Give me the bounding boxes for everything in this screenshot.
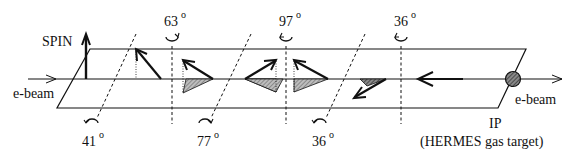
spin-arrow-icon — [82, 34, 90, 79]
spin-vector-longitudinal-icon — [418, 72, 463, 86]
angle-label-77: 77 o — [197, 129, 219, 149]
svg-text:63: 63 — [164, 14, 178, 29]
rotation-arc-97-arrow-icon — [280, 33, 284, 37]
svg-text:o: o — [296, 9, 301, 20]
svg-text:36: 36 — [394, 14, 408, 29]
svg-text:97: 97 — [279, 14, 293, 29]
rotator-axis-77 — [211, 34, 251, 118]
angle-label-41: 41 o — [82, 129, 104, 149]
svg-text:o: o — [329, 129, 334, 140]
spin-rotator-diagram: SPIN e-beam e-beam IP (HERMES gas target… — [0, 0, 571, 159]
spin-vector-5-icon — [354, 79, 386, 98]
rotation-arc-63-arrow-icon — [175, 33, 179, 37]
svg-text:36: 36 — [312, 134, 326, 149]
svg-text:o: o — [411, 9, 416, 20]
spin-label: SPIN — [42, 34, 72, 49]
ip-label: IP — [489, 116, 502, 131]
rotation-arc-36t-arrow-icon — [395, 33, 399, 37]
svg-text:o: o — [99, 129, 104, 140]
beam-label-left: e-beam — [13, 86, 54, 101]
angle-label-97: 97 o — [279, 9, 301, 29]
angle-label-36b: 36 o — [312, 129, 334, 149]
spin-vector-3-icon — [245, 60, 283, 92]
ip-target-icon — [506, 72, 521, 87]
spin-vector-4-icon — [294, 60, 328, 92]
spin-vector-1-icon — [136, 49, 161, 79]
svg-text:o: o — [214, 129, 219, 140]
svg-text:77: 77 — [197, 134, 211, 149]
rotator-axis-36b — [326, 34, 365, 118]
rotation-arc-63-icon — [166, 37, 178, 41]
rotation-arc-97-icon — [280, 37, 292, 41]
spin-vector-2-icon — [183, 60, 213, 93]
ip-sublabel: (HERMES gas target) — [420, 134, 544, 150]
rotator-axis-41 — [97, 34, 136, 118]
beam-label-right: e-beam — [515, 92, 556, 107]
svg-text:41: 41 — [82, 134, 96, 149]
svg-text:o: o — [181, 9, 186, 20]
angle-label-36t: 36 o — [394, 9, 416, 29]
angle-label-63: 63 o — [164, 9, 186, 29]
rotation-arc-36t-icon — [395, 37, 407, 41]
